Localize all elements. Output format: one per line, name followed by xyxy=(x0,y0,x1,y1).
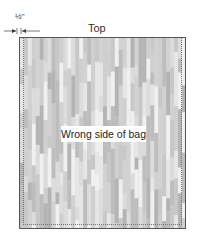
bag-panel: Wrong side of bag xyxy=(19,37,186,229)
seam-line-bottom xyxy=(23,224,182,225)
seam-allowance-label: ½" xyxy=(15,13,25,21)
seam-allowance-arrows-icon xyxy=(4,28,40,34)
panel-label: Wrong side of bag xyxy=(61,126,146,142)
top-edge-label: Top xyxy=(88,23,106,34)
seam-line-left xyxy=(23,38,24,225)
seam-line-right xyxy=(181,38,182,225)
